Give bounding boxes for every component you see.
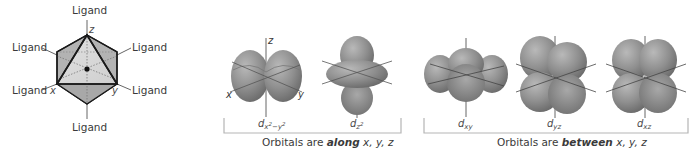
orbital-label-dyz: dyz [547,119,561,131]
orbital-label-dz2: dz2 [350,119,364,131]
caption-between: Orbitals are between x, y, z [497,137,647,148]
caption-along: Orbitals are along x, y, z [262,137,393,148]
d-orbitals-graphic: z x y [0,0,696,151]
orbital-label-dxy: dxy [458,119,473,131]
orbital-dx2-y2: z x y [225,35,305,117]
orbital-label-dxz: dxz [637,119,651,131]
orbital-dyz [516,36,596,118]
orbital-dz2 [322,36,392,118]
orbital-dxz [606,36,686,118]
orbital-label-dx2-y2: dx2−y2 [258,119,286,131]
bracket-along [224,118,401,133]
orbital-dxy [424,38,508,117]
axis-label-x: x [225,89,232,100]
axis-label-z: z [267,35,274,46]
axis-label-y: y [297,89,305,100]
